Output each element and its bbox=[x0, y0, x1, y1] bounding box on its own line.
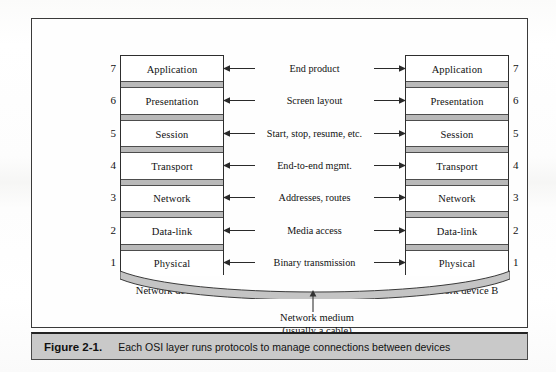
layer-separator bbox=[121, 146, 223, 153]
layer-box-transport-right: Transport bbox=[406, 153, 508, 178]
layer-separator bbox=[406, 146, 508, 153]
layer-number-3-left: 3 bbox=[96, 185, 118, 210]
layer-number-1-left: 1 bbox=[96, 250, 118, 275]
layer-name: Presentation bbox=[121, 96, 223, 107]
layer-number-text: 1 bbox=[513, 256, 519, 268]
layer-number-text: 1 bbox=[111, 256, 117, 268]
layer-descriptions: End productScreen layoutStart, stop, res… bbox=[224, 55, 405, 275]
layer-box-transport-left: Transport bbox=[121, 153, 223, 178]
arrow-right-icon bbox=[374, 97, 406, 104]
layer-number-2-left: 2 bbox=[96, 217, 118, 242]
layer-description-row-7: End product bbox=[224, 55, 405, 80]
figure-caption-text: Each OSI layer runs protocols to manage … bbox=[118, 341, 450, 353]
arrow-right-icon bbox=[374, 129, 406, 136]
layer-name: Session bbox=[121, 128, 223, 139]
layer-separator bbox=[121, 179, 223, 186]
arrow-right-icon bbox=[374, 226, 406, 233]
layer-number-3-right: 3 bbox=[511, 185, 533, 210]
layer-box-session-left: Session bbox=[121, 121, 223, 146]
layer-number-2-right: 2 bbox=[511, 217, 533, 242]
arrow-right-icon bbox=[374, 259, 406, 266]
layer-number-text: 3 bbox=[513, 191, 519, 203]
layer-name: Physical bbox=[121, 258, 223, 269]
layer-name: Data-link bbox=[121, 225, 223, 236]
layer-name: Application bbox=[121, 63, 223, 74]
layer-description-row-6: Screen layout bbox=[224, 87, 405, 112]
layer-box-session-right: Session bbox=[406, 121, 508, 146]
layer-number-text: 7 bbox=[111, 62, 117, 74]
layer-box-network-left: Network bbox=[121, 186, 223, 211]
layer-number-text: 4 bbox=[513, 159, 519, 171]
layer-number-text: 7 bbox=[513, 62, 519, 74]
protocol-stack-right: ApplicationPresentationSessionTransportN… bbox=[405, 55, 509, 275]
layer-box-presentation-left: Presentation bbox=[121, 88, 223, 113]
layer-number-6-left: 6 bbox=[96, 87, 118, 112]
figure-frame: 7654321 ApplicationPresentationSessionTr… bbox=[31, 18, 528, 328]
layer-name: Presentation bbox=[406, 96, 508, 107]
layer-name: Network bbox=[121, 193, 223, 204]
medium-label-line1: Network medium bbox=[232, 311, 402, 324]
layer-name: Network bbox=[406, 193, 508, 204]
layer-numbers-left: 7654321 bbox=[96, 55, 118, 275]
layer-separator bbox=[121, 81, 223, 88]
layer-separator bbox=[406, 179, 508, 186]
layer-number-1-right: 1 bbox=[511, 250, 533, 275]
layer-number-4-left: 4 bbox=[96, 152, 118, 177]
layer-number-text: 2 bbox=[111, 224, 117, 236]
layer-name: Physical bbox=[406, 258, 508, 269]
layer-name: Transport bbox=[406, 160, 508, 171]
layer-box-data-link-right: Data-link bbox=[406, 218, 508, 243]
layer-separator bbox=[406, 114, 508, 121]
layer-separator bbox=[406, 244, 508, 251]
layer-box-presentation-right: Presentation bbox=[406, 88, 508, 113]
layer-number-7-left: 7 bbox=[96, 55, 118, 80]
layer-description-row-3: Addresses, routes bbox=[224, 185, 405, 210]
layer-number-text: 5 bbox=[513, 127, 519, 139]
layer-box-application-right: Application bbox=[406, 56, 508, 81]
layer-separator bbox=[406, 81, 508, 88]
layer-description-row-5: Start, stop, resume, etc. bbox=[224, 120, 405, 145]
figure-number: Figure 2-1. bbox=[44, 341, 102, 353]
layer-name: Transport bbox=[121, 160, 223, 171]
layer-box-network-right: Network bbox=[406, 186, 508, 211]
layer-separator bbox=[121, 244, 223, 251]
figure-caption-bar: Figure 2-1. Each OSI layer runs protocol… bbox=[31, 332, 528, 360]
layer-number-7-right: 7 bbox=[511, 55, 533, 80]
layer-number-text: 5 bbox=[111, 127, 117, 139]
layer-number-text: 6 bbox=[111, 94, 117, 106]
layer-box-application-left: Application bbox=[121, 56, 223, 81]
layer-description-row-2: Media access bbox=[224, 217, 405, 242]
arrow-right-icon bbox=[374, 64, 406, 71]
layer-number-text: 4 bbox=[111, 159, 117, 171]
layer-separator bbox=[121, 114, 223, 121]
layer-number-text: 3 bbox=[111, 191, 117, 203]
layer-number-4-right: 4 bbox=[511, 152, 533, 177]
layer-separator bbox=[121, 211, 223, 218]
arrow-right-icon bbox=[374, 194, 406, 201]
arrow-right-icon bbox=[374, 161, 406, 168]
layer-separator bbox=[406, 211, 508, 218]
layer-numbers-right: 7654321 bbox=[511, 55, 533, 275]
layer-name: Session bbox=[406, 128, 508, 139]
layer-number-5-right: 5 bbox=[511, 120, 533, 145]
layer-box-data-link-left: Data-link bbox=[121, 218, 223, 243]
layer-number-6-right: 6 bbox=[511, 87, 533, 112]
medium-pointer-arrow bbox=[307, 290, 319, 312]
layer-name: Application bbox=[406, 63, 508, 74]
layer-name: Data-link bbox=[406, 225, 508, 236]
protocol-stack-left: ApplicationPresentationSessionTransportN… bbox=[120, 55, 224, 275]
layer-number-text: 6 bbox=[513, 94, 519, 106]
layer-number-5-left: 5 bbox=[96, 120, 118, 145]
layer-number-text: 2 bbox=[513, 224, 519, 236]
layer-description-row-4: End-to-end mgmt. bbox=[224, 152, 405, 177]
